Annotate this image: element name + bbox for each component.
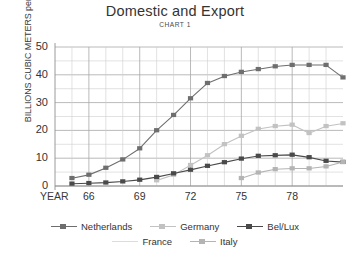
series-marker: [290, 166, 295, 170]
plot-svg: [55, 47, 343, 186]
legend-marker-icon: [150, 223, 176, 230]
chart-title: Domestic and Export: [0, 3, 350, 19]
x-axis-label: YEAR: [40, 190, 69, 202]
series-marker: [273, 153, 278, 157]
series-marker: [307, 155, 312, 159]
legend-label: Bel/Lux: [267, 221, 299, 232]
chart-legend: NetherlandsGermanyBel/Lux FranceItaly: [0, 219, 350, 249]
y-tick-label: 10: [22, 151, 48, 163]
series-marker: [205, 81, 210, 85]
legend-item-italy[interactable]: Italy: [190, 236, 237, 247]
series-marker: [154, 175, 159, 179]
legend-marker-icon: [190, 238, 216, 245]
x-tick-label: 75: [229, 190, 253, 202]
series-marker: [86, 181, 91, 185]
series-marker: [86, 173, 91, 177]
series-marker: [273, 167, 278, 171]
series-marker: [256, 127, 261, 131]
series-marker: [239, 70, 244, 74]
x-tick-label: 78: [280, 190, 304, 202]
legend-marker-icon: [237, 223, 263, 230]
series-marker: [222, 160, 227, 164]
chart-container: Domestic and Export CHART 1 BILLIONS CUB…: [0, 0, 350, 254]
series-marker: [171, 171, 176, 175]
series-marker: [137, 146, 142, 150]
series-marker: [340, 160, 345, 164]
y-tick-label: 0: [22, 179, 48, 191]
series-marker: [256, 67, 261, 71]
chart-subtitle: CHART 1: [21, 20, 329, 29]
series-marker: [188, 168, 193, 172]
series-marker: [340, 75, 345, 79]
series-marker: [205, 153, 210, 157]
x-tick-label: 66: [77, 190, 101, 202]
legend-marker-icon: [51, 223, 77, 230]
x-tick-label: 69: [128, 190, 152, 202]
legend-item-france[interactable]: France: [112, 236, 172, 247]
legend-label: Netherlands: [81, 221, 132, 232]
legend-item-netherlands[interactable]: Netherlands: [51, 221, 132, 232]
series-marker: [290, 63, 295, 67]
y-tick-label: 30: [22, 96, 48, 108]
series-marker: [307, 131, 312, 135]
y-tick-label: 40: [22, 68, 48, 80]
series-marker: [205, 164, 210, 168]
series-marker: [239, 176, 244, 180]
series-marker: [323, 63, 328, 67]
legend-row-primary: NetherlandsGermanyBel/Lux: [0, 219, 350, 234]
y-tick-label: 20: [22, 123, 48, 135]
series-marker: [273, 64, 278, 68]
series-marker: [290, 123, 295, 127]
series-marker: [307, 63, 312, 67]
series-marker: [239, 134, 244, 138]
series-marker: [188, 96, 193, 100]
series-marker: [239, 156, 244, 160]
series-marker: [69, 181, 74, 185]
series-marker: [154, 128, 159, 132]
series-marker: [222, 142, 227, 146]
series-marker: [256, 154, 261, 158]
series-marker: [290, 153, 295, 157]
series-marker: [323, 159, 328, 163]
legend-marker-icon: [112, 238, 138, 245]
legend-label: Germany: [180, 221, 219, 232]
legend-label: Italy: [220, 236, 237, 247]
y-tick-label: 50: [22, 40, 48, 52]
legend-row-secondary: FranceItaly: [0, 234, 350, 249]
series-marker: [120, 157, 125, 161]
legend-label: France: [142, 236, 172, 247]
series-marker: [188, 163, 193, 167]
series-marker: [273, 124, 278, 128]
series-marker: [340, 121, 345, 125]
series-marker: [323, 124, 328, 128]
series-marker: [256, 170, 261, 174]
series-marker: [103, 180, 108, 184]
legend-item-germany[interactable]: Germany: [150, 221, 219, 232]
x-tick-label: 72: [179, 190, 203, 202]
series-marker: [137, 178, 142, 182]
series-marker: [69, 176, 74, 180]
legend-item-bel-lux[interactable]: Bel/Lux: [237, 221, 299, 232]
series-marker: [103, 166, 108, 170]
series-marker: [323, 164, 328, 168]
plot-area: [55, 47, 343, 186]
series-marker: [307, 166, 312, 170]
series-marker: [120, 179, 125, 183]
series-marker: [222, 74, 227, 78]
series-marker: [171, 113, 176, 117]
